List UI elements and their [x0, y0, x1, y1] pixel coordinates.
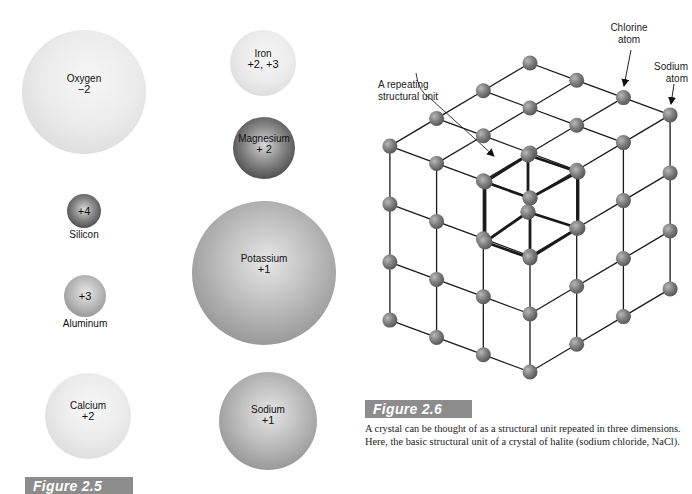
- lattice-atom: [616, 135, 631, 150]
- lattice-atom: [523, 365, 538, 380]
- halite-crystal-lattice: [0, 0, 692, 494]
- lattice-atom: [429, 272, 444, 287]
- sodium-arrow: [671, 84, 674, 104]
- unit-atom: [571, 165, 586, 180]
- lattice-atom: [382, 255, 397, 270]
- bond: [483, 63, 530, 91]
- chlorine-label-line1: Chlorine: [610, 22, 647, 33]
- lattice-atom: [616, 251, 631, 266]
- lattice-atom: [429, 156, 444, 171]
- structural-unit-label: A repeating structural unit: [378, 79, 438, 102]
- bond: [623, 289, 670, 317]
- lattice-atom: [429, 111, 444, 126]
- lattice-atom: [382, 313, 397, 328]
- lattice-atom: [476, 83, 491, 98]
- unit-label-line2: structural unit: [378, 91, 438, 102]
- unit-atom: [523, 191, 538, 206]
- bond: [530, 125, 577, 153]
- unit-atom: [478, 235, 493, 250]
- lattice-atom: [569, 279, 584, 294]
- bond: [577, 143, 624, 171]
- figure-2-6-caption: A crystal can be thought of as a structu…: [365, 422, 685, 448]
- lattice-atom: [476, 128, 491, 143]
- lattice-atom: [663, 165, 678, 180]
- chlorine-arrow: [624, 50, 631, 86]
- bond: [530, 286, 577, 314]
- lattice-atom: [382, 197, 397, 212]
- sodium-atom-label: Sodium atom: [642, 61, 688, 84]
- bond: [530, 344, 577, 372]
- bond: [530, 172, 578, 198]
- lattice-atom: [429, 330, 444, 345]
- lattice-atom: [523, 101, 538, 116]
- lattice-atom: [616, 90, 631, 105]
- bond: [577, 98, 624, 126]
- chlorine-label-line2: atom: [618, 34, 640, 45]
- figure-2-6-label: Figure 2.6: [365, 400, 472, 418]
- bond: [390, 118, 437, 146]
- bond: [485, 155, 528, 182]
- bond: [623, 231, 670, 259]
- bond: [577, 259, 624, 287]
- unit-atom: [521, 205, 536, 220]
- unit-atom: [478, 175, 493, 190]
- lattice-atom: [616, 309, 631, 324]
- unit-label-line1: A repeating: [378, 79, 429, 90]
- lattice-atom: [476, 289, 491, 304]
- lattice-atom: [569, 73, 584, 88]
- bond: [530, 80, 577, 108]
- lattice-atom: [429, 214, 444, 229]
- lattice-atom: [523, 56, 538, 71]
- lattice-atom: [616, 193, 631, 208]
- lattice-atom: [569, 118, 584, 133]
- unit-atom: [571, 221, 586, 236]
- bond: [483, 108, 530, 136]
- unit-atom: [521, 148, 536, 163]
- sodium-label-line2: atom: [666, 73, 688, 84]
- lattice-atom: [382, 139, 397, 154]
- lattice-atom: [663, 281, 678, 296]
- lattice-atom: [476, 347, 491, 362]
- lattice-atom: [523, 307, 538, 322]
- chlorine-atom-label: Chlorine atom: [605, 22, 653, 45]
- sodium-label-line1: Sodium: [654, 61, 688, 72]
- bond: [623, 173, 670, 201]
- bond: [437, 91, 484, 119]
- lattice-atom: [663, 107, 678, 122]
- lattice-atom: [569, 337, 584, 352]
- annotation-arrows: [416, 50, 674, 156]
- lattice-atom: [663, 223, 678, 238]
- bond: [623, 115, 670, 143]
- unit-atom: [523, 251, 538, 266]
- bond: [485, 212, 528, 242]
- bond: [577, 317, 624, 345]
